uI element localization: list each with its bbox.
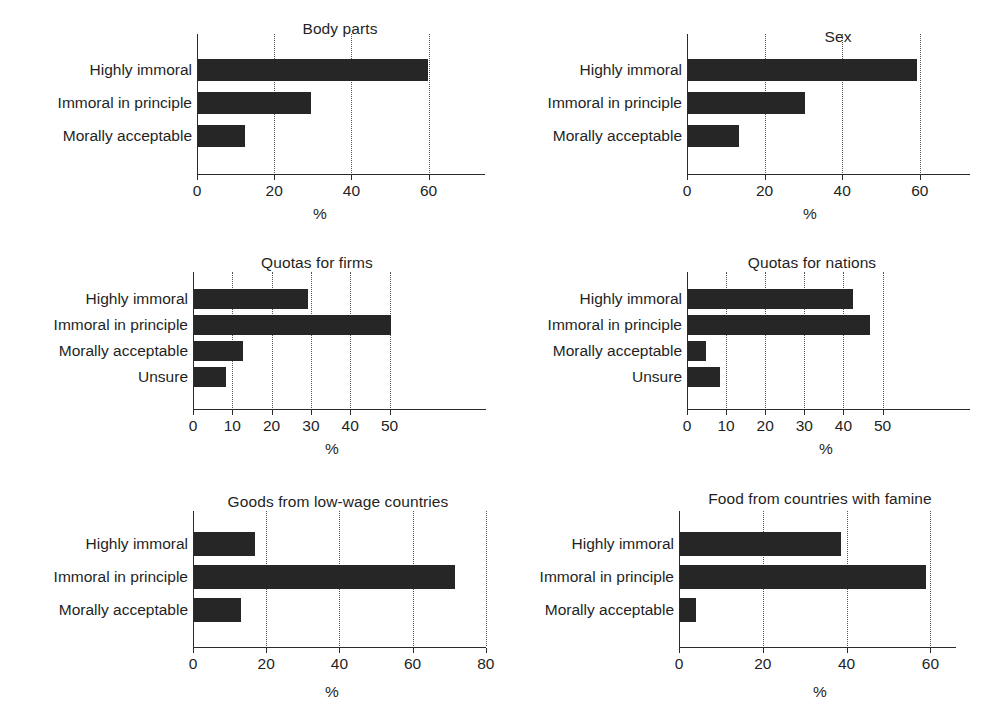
x-axis-tick	[930, 648, 931, 653]
x-axis-tick	[679, 648, 680, 653]
gridline	[930, 511, 932, 646]
x-axis-tick-label: 40	[838, 655, 855, 673]
x-axis-tick	[763, 648, 764, 653]
bar	[680, 532, 841, 556]
x-axis-label: %	[813, 683, 827, 701]
x-axis-tick	[847, 648, 848, 653]
x-axis-line	[679, 647, 956, 648]
category-label: Immoral in principle	[540, 568, 674, 586]
category-label: Morally acceptable	[545, 601, 674, 619]
chart-panel: Food from countries with famine0204060Hi…	[0, 0, 989, 725]
x-axis-tick-label: 20	[754, 655, 771, 673]
category-label: Highly immoral	[572, 535, 675, 553]
bar	[680, 598, 696, 622]
bar	[680, 565, 926, 589]
x-axis-tick-label: 0	[675, 655, 684, 673]
x-axis-tick-label: 60	[922, 655, 939, 673]
figure-panel-grid: Body parts0204060Highly immoralImmoral i…	[0, 0, 989, 725]
chart-title: Food from countries with famine	[620, 490, 989, 508]
